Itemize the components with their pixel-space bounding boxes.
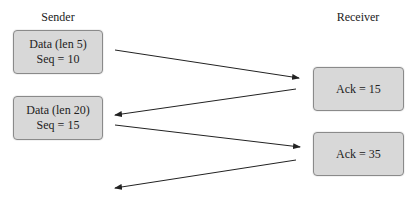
arrow-ack-1	[115, 89, 296, 115]
arrows-layer	[0, 0, 416, 199]
arrow-ack-2	[115, 160, 296, 188]
arrow-data-1	[115, 50, 299, 78]
arrow-data-2	[115, 125, 300, 147]
